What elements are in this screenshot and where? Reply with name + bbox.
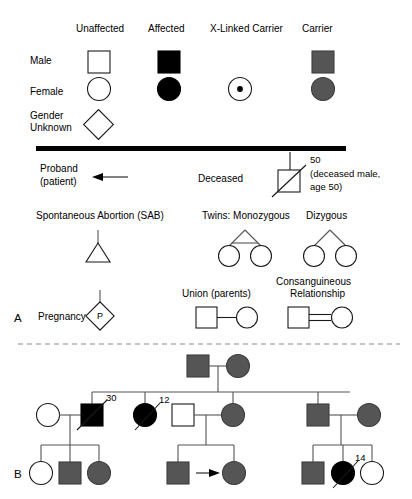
legend-row-label-female: Female [30, 86, 64, 97]
legend-deceased: Deceased 50 (deceased male, age 50) [198, 152, 380, 197]
mono-twin-left-branch [229, 230, 245, 246]
symbol-x-linked-carrier-female [229, 78, 252, 101]
III-7-age-label: 14 [355, 452, 366, 463]
deceased-age-label: 50 [310, 154, 321, 165]
pedigree-sibship-bar-gen2 [92, 392, 350, 404]
pedigree-node-I-1 [187, 355, 209, 377]
symbol-unaffected-female [88, 78, 111, 101]
twins-monozygous-label: Twins: Monozygous [202, 210, 290, 221]
proband-label-line2: (patient) [40, 176, 77, 187]
pedigree-node-III-6 [302, 462, 324, 484]
deceased-note-line1: (deceased male, [310, 168, 380, 179]
mono-twin-left-circle [219, 246, 240, 267]
figure-container: Unaffected Affected X-Linked Carrier Car… [0, 0, 412, 499]
II-3-age-label: 12 [159, 394, 170, 405]
pedigree-legend-figure: Unaffected Affected X-Linked Carrier Car… [0, 0, 412, 499]
sab-label: Spontaneous Abortion (SAB) [36, 210, 164, 221]
symbol-gender-unknown-diamond [84, 110, 114, 140]
pedigree-node-III-5 [223, 462, 246, 485]
pedigree-family-right: 14 [302, 404, 384, 489]
consanguineous-label-line2: Relationship [290, 288, 345, 299]
II-2-age-label: 30 [106, 392, 117, 403]
legend-header-carrier: Carrier [302, 23, 333, 34]
symbol-carrier-female [312, 78, 335, 101]
pregnancy-label: Pregnancy [38, 311, 86, 322]
legend-pregnancy: Pregnancy P [38, 290, 114, 330]
twins-dizygous-label: Dizygous [306, 210, 347, 221]
panel-a-label: A [14, 312, 22, 324]
pedigree-node-II-4 [172, 404, 194, 426]
pedigree-node-II-6 [307, 404, 329, 426]
legend-consanguineous: Consanguineous Relationship [276, 276, 353, 328]
x-linked-carrier-center-dot [237, 86, 243, 92]
pedigree-node-III-7 [332, 462, 355, 485]
pedigree-family-left: 30 [30, 392, 117, 485]
legend-row-male: Male [30, 51, 334, 73]
deceased-label: Deceased [198, 173, 243, 184]
legend-row-label-male: Male [30, 55, 52, 66]
pedigree-node-III-2 [59, 462, 81, 484]
legend-column-headers: Unaffected Affected X-Linked Carrier Car… [76, 23, 333, 34]
di-twin-right-branch [330, 230, 346, 246]
proband-arrow-icon [92, 173, 128, 181]
legend-header-x-linked-carrier: X-Linked Carrier [210, 23, 283, 34]
symbol-sab-triangle [86, 243, 110, 262]
union-female-circle [237, 307, 258, 328]
pregnancy-mark-p: P [97, 311, 103, 321]
proband-label-line1: Proband [40, 163, 78, 174]
pedigree-node-II-3 [134, 404, 157, 427]
symbol-affected-female [158, 78, 181, 101]
pedigree-node-II-5 [222, 404, 245, 427]
pedigree-generation-1 [187, 355, 250, 393]
symbol-affected-male [158, 51, 180, 73]
union-label: Union (parents) [182, 288, 251, 299]
panel-b-label: B [14, 468, 22, 480]
proband-arrow-indicator [196, 469, 220, 477]
legend-row-female: Female [30, 78, 335, 101]
consanguineous-label-line1: Consanguineous [276, 276, 351, 287]
consanguineous-male-square [288, 307, 309, 328]
deceased-note-line2: age 50) [310, 181, 342, 192]
symbol-carrier-male [312, 51, 334, 73]
union-male-square [196, 307, 217, 328]
di-twin-left-branch [314, 230, 330, 246]
legend-twins-dizygous: Dizygous [304, 210, 357, 267]
pedigree-node-II-7 [358, 404, 381, 427]
legend-row-gender-unknown: Gender Unknown [30, 110, 113, 140]
pedigree-node-III-4 [167, 462, 189, 484]
legend-row-label-gender: Gender [30, 110, 64, 121]
symbol-unaffected-male [88, 51, 110, 73]
mono-twin-right-branch [245, 230, 261, 246]
legend-header-unaffected: Unaffected [76, 23, 124, 34]
legend-twins-monozygous: Twins: Monozygous [202, 210, 290, 267]
pedigree-node-III-3 [88, 462, 111, 485]
pedigree-node-III-1 [30, 462, 53, 485]
mono-twin-right-circle [251, 246, 272, 267]
di-twin-right-circle [336, 246, 357, 267]
pedigree-node-III-8 [361, 462, 384, 485]
pedigree-node-group-II-3: 12 [134, 394, 170, 430]
legend-proband: Proband (patient) [40, 163, 128, 187]
pedigree-node-I-2 [227, 355, 250, 378]
pedigree-family-middle [167, 404, 246, 485]
legend-row-label-unknown: Unknown [30, 122, 72, 133]
legend-header-affected: Affected [148, 23, 185, 34]
di-twin-left-circle [304, 246, 325, 267]
legend-sab: Spontaneous Abortion (SAB) [36, 210, 164, 262]
legend-union: Union (parents) [182, 288, 258, 328]
thick-divider-rule [36, 146, 346, 151]
pedigree-node-II-1 [37, 404, 60, 427]
consanguineous-female-circle [332, 307, 353, 328]
